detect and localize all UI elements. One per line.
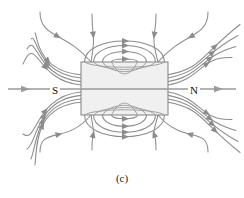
outer-line-right-top-1-arrowhead xyxy=(203,62,211,68)
tall-left-inner-top xyxy=(91,14,94,62)
inner-loop-top-2-arrowhead xyxy=(122,48,129,54)
tall-right-inner-bottom-arrowhead xyxy=(152,131,158,139)
inner-loop-bottom-2-arrowhead xyxy=(122,123,129,129)
tall-right-inner-top xyxy=(154,14,158,62)
inner-loop-top-4-arrowhead xyxy=(122,38,129,44)
tall-right-outer-bottom xyxy=(158,115,208,152)
inner-loop-top-1-arrowhead xyxy=(122,56,129,62)
outer-line-right-top-2 xyxy=(168,47,236,82)
outer-line-right-bottom-3 xyxy=(168,99,238,141)
tall-left-outer-top xyxy=(40,12,91,62)
outer-line-right-bottom-1-arrowhead xyxy=(203,109,211,115)
outer-line-right-top-1 xyxy=(168,57,232,85)
tall-left-outer-bottom-arrowhead xyxy=(55,132,63,138)
inner-loop-bottom-1-arrowhead xyxy=(122,116,129,122)
tall-right-inner-top-arrowhead xyxy=(152,31,158,39)
tall-left-outer-bottom xyxy=(40,115,91,152)
outer-line-right-bottom-4 xyxy=(168,102,240,152)
tall-right-outer-top-arrowhead xyxy=(188,32,196,38)
outer-line-right-top-4 xyxy=(168,25,240,75)
outer-line-left-top-4 xyxy=(35,33,81,75)
field-line-canvas xyxy=(0,0,244,198)
outer-line-right-top-3 xyxy=(168,36,238,78)
tall-right-outer-top xyxy=(158,12,208,62)
figure-caption: (c) xyxy=(0,172,244,184)
south-pole-label: S xyxy=(50,84,60,97)
north-pole-label: N xyxy=(188,84,200,97)
magnetic-field-figure: S N (c) xyxy=(0,0,244,198)
axis-line-right-arrowhead xyxy=(214,86,223,92)
axis-line-left-arrowhead xyxy=(21,86,30,92)
tall-left-outer-top-arrowhead xyxy=(53,32,61,38)
inner-loop-bottom-4-arrowhead xyxy=(122,134,129,140)
outer-line-left-top-2 xyxy=(27,45,81,81)
outer-line-right-bottom-2 xyxy=(168,95,236,130)
tall-left-inner-bottom-arrowhead xyxy=(90,131,96,139)
